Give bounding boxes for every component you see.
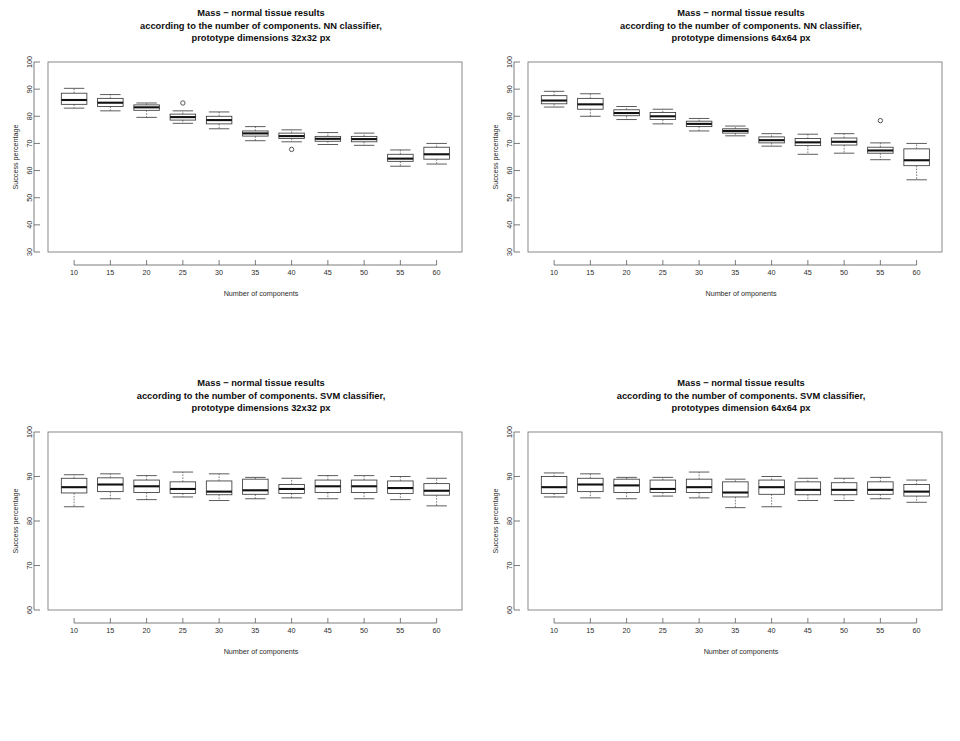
boxplot-box [578, 94, 604, 117]
x-tick-label: 50 [840, 626, 848, 635]
y-tick-label: 50 [505, 194, 514, 202]
x-tick-label: 60 [433, 626, 441, 635]
plot-title: Mass − normal tissue resultsaccording to… [620, 8, 862, 43]
boxplot-box [614, 477, 640, 498]
y-tick-label: 100 [25, 426, 34, 438]
boxplot-box [206, 474, 232, 501]
box-iqr [170, 482, 196, 494]
y-tick-label: 30 [505, 248, 514, 256]
boxplot-box [134, 103, 160, 117]
x-tick-label: 50 [360, 268, 368, 277]
y-tick-label: 40 [25, 221, 34, 229]
y-axis: 30405060708090100Success percentage [491, 56, 520, 256]
x-tick-label: 45 [324, 268, 332, 277]
boxplot-box [170, 472, 196, 497]
box-iqr [868, 482, 894, 494]
y-tick-label: 80 [25, 112, 34, 120]
boxplot-box [351, 133, 377, 145]
boxplot-box [795, 478, 821, 500]
x-tick-label: 35 [251, 268, 259, 277]
y-axis: 60708090100Success percentage [11, 426, 40, 614]
boxplot-box [541, 91, 567, 107]
x-tick-label: 10 [550, 626, 558, 635]
y-tick-label: 70 [25, 562, 34, 570]
box-iqr [424, 484, 450, 496]
plot-title: Mass − normal tissue resultsaccording to… [617, 378, 865, 413]
outlier-point [289, 147, 293, 151]
boxplot-box [759, 477, 785, 507]
x-tick-label: 20 [623, 626, 631, 635]
boxplot-box [98, 474, 124, 499]
x-tick-label: 15 [586, 268, 594, 277]
x-tick-label: 20 [623, 268, 631, 277]
plot-title-line-2: prototype dimensions 64x64 px [672, 33, 812, 43]
x-tick-label: 15 [106, 626, 114, 635]
x-tick-label: 40 [288, 268, 296, 277]
x-tick-label: 60 [433, 268, 441, 277]
box-iqr [686, 479, 712, 492]
y-tick-label: 90 [505, 85, 514, 93]
x-tick-label: 50 [360, 626, 368, 635]
x-tick-label: 50 [840, 268, 848, 277]
box-iqr [723, 482, 749, 497]
y-tick-label: 80 [25, 517, 34, 525]
boxplot-box [206, 112, 232, 129]
plot-title-line-1: according to the number of components. S… [137, 391, 385, 401]
x-tick-label: 20 [143, 626, 151, 635]
box-iqr [904, 149, 930, 166]
outlier-point [181, 101, 185, 105]
boxplot-box [868, 118, 894, 159]
box-iqr [904, 485, 930, 497]
box-iqr [541, 477, 567, 494]
boxplot-box [831, 478, 857, 500]
x-tick-label: 30 [215, 268, 223, 277]
x-tick-label: 10 [70, 626, 78, 635]
panel-top-right: Mass − normal tissue resultsaccording to… [480, 0, 960, 370]
boxplot-box [686, 472, 712, 498]
x-tick-label: 40 [288, 626, 296, 635]
boxplot-box [686, 118, 712, 130]
y-tick-label: 30 [25, 248, 34, 256]
boxplot-svg-top-right: Mass − normal tissue resultsaccording to… [480, 0, 960, 370]
x-tick-label: 45 [804, 626, 812, 635]
x-tick-label: 35 [731, 626, 739, 635]
panel-top-left: Mass − normal tissue resultsaccording to… [0, 0, 480, 370]
panel-bottom-right: Mass − normal tissue resultsaccording to… [480, 370, 960, 741]
x-axis: 1015202530354045505560Number of componen… [70, 260, 441, 298]
y-tick-label: 40 [505, 221, 514, 229]
x-tick-label: 10 [70, 268, 78, 277]
y-tick-label: 100 [505, 56, 514, 68]
boxplot-box [61, 88, 87, 108]
boxplot-box [904, 143, 930, 179]
plot-title-line-1: according to the number of components. S… [617, 391, 865, 401]
plot-title-line-0: Mass − normal tissue results [197, 8, 324, 18]
boxplot-box [868, 477, 894, 498]
boxplot-box [614, 107, 640, 120]
x-tick-label: 55 [876, 626, 884, 635]
boxplot-box [98, 95, 124, 111]
x-tick-label: 55 [396, 626, 404, 635]
box-iqr [795, 482, 821, 495]
plot-title-line-0: Mass − normal tissue results [197, 378, 324, 388]
plot-title-line-2: prototypes dimension 64x64 px [672, 403, 812, 413]
boxplot-box [424, 143, 450, 164]
x-tick-label: 40 [768, 626, 776, 635]
x-tick-label: 35 [251, 626, 259, 635]
box-iqr [61, 478, 87, 493]
box-iqr [831, 483, 857, 495]
x-tick-label: 15 [586, 626, 594, 635]
y-tick-label: 80 [505, 112, 514, 120]
plot-title-line-2: prototype dimensions 32x32 px [192, 403, 332, 413]
boxplot-box [578, 474, 604, 498]
boxplot-box [723, 126, 749, 136]
y-tick-label: 50 [25, 194, 34, 202]
box-iqr [424, 147, 450, 159]
boxplot-box [170, 101, 196, 124]
boxplot-svg-bottom-right: Mass − normal tissue resultsaccording to… [480, 370, 960, 740]
boxplot-box [795, 134, 821, 154]
x-tick-label: 40 [768, 268, 776, 277]
boxplot-box [388, 477, 414, 500]
boxplot-box [904, 480, 930, 502]
y-tick-label: 100 [25, 56, 34, 68]
y-tick-label: 90 [25, 85, 34, 93]
